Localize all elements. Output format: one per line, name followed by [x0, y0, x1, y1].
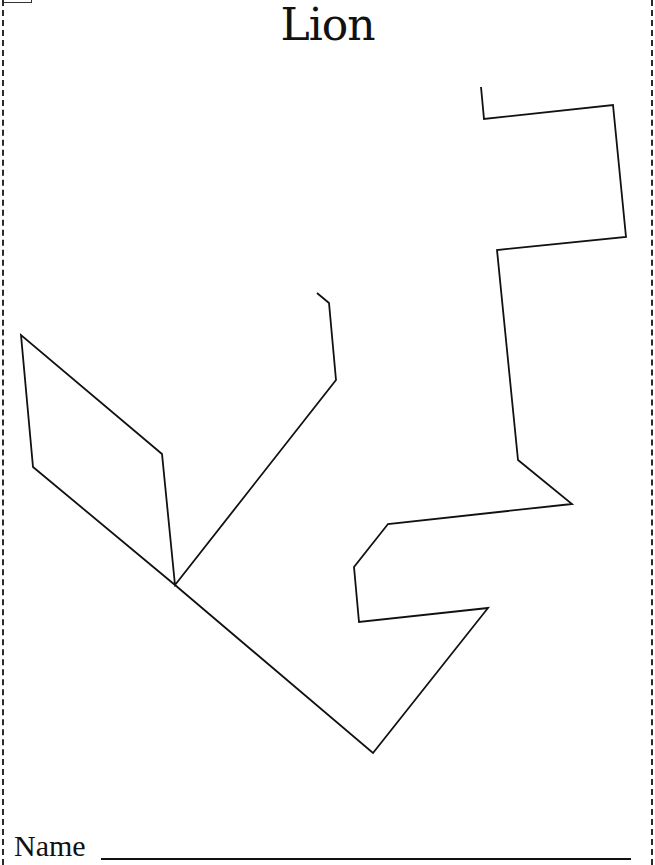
worksheet-page: Lion Name — [0, 0, 655, 865]
tangram-lion-outline — [0, 0, 655, 865]
lion-silhouette-outline — [21, 87, 626, 753]
name-write-line[interactable] — [101, 858, 631, 860]
name-label: Name — [14, 828, 86, 864]
name-field-row: Name — [14, 828, 634, 864]
